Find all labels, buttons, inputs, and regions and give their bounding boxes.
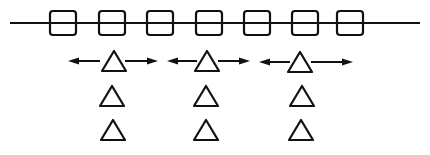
right-arrow-icon [147, 58, 158, 65]
triangle-icon [100, 86, 124, 106]
static-triangle-row-1 [100, 86, 314, 106]
triangle-icon [194, 86, 218, 106]
triangle-icon [101, 120, 125, 140]
right-arrow-icon [239, 58, 250, 65]
triangle-icon [195, 51, 219, 71]
moving-triangle-group-3 [259, 52, 353, 72]
triangle-icon [194, 120, 218, 140]
left-arrow-icon [68, 58, 79, 65]
triangle-icon [102, 51, 126, 71]
triangle-icon [288, 52, 312, 72]
moving-triangle-row [68, 51, 353, 72]
static-triangle-rows [100, 86, 314, 140]
left-arrow-icon [167, 58, 178, 65]
right-arrow-icon [342, 59, 353, 66]
moving-triangle-group-2 [167, 51, 250, 71]
static-triangle-row-2 [101, 120, 313, 140]
triangle-icon [289, 120, 313, 140]
line-squares-triangles-diagram [0, 0, 430, 155]
triangle-icon [290, 86, 314, 106]
left-arrow-icon [259, 59, 270, 66]
moving-triangle-group-1 [68, 51, 158, 71]
